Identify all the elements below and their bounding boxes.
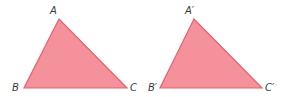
- vertex-label-a-prime: A′: [184, 5, 195, 16]
- congruent-triangles-diagram: A B C A′ B′ C′: [0, 0, 287, 97]
- vertex-label-b: B: [12, 82, 19, 93]
- vertex-label-a: A: [49, 5, 57, 16]
- vertex-label-b-prime: B′: [148, 82, 158, 93]
- triangle-abc: [24, 19, 127, 88]
- triangle-abc-prime: [160, 19, 262, 88]
- vertex-label-c: C: [130, 82, 137, 93]
- vertex-label-c-prime: C′: [265, 82, 275, 93]
